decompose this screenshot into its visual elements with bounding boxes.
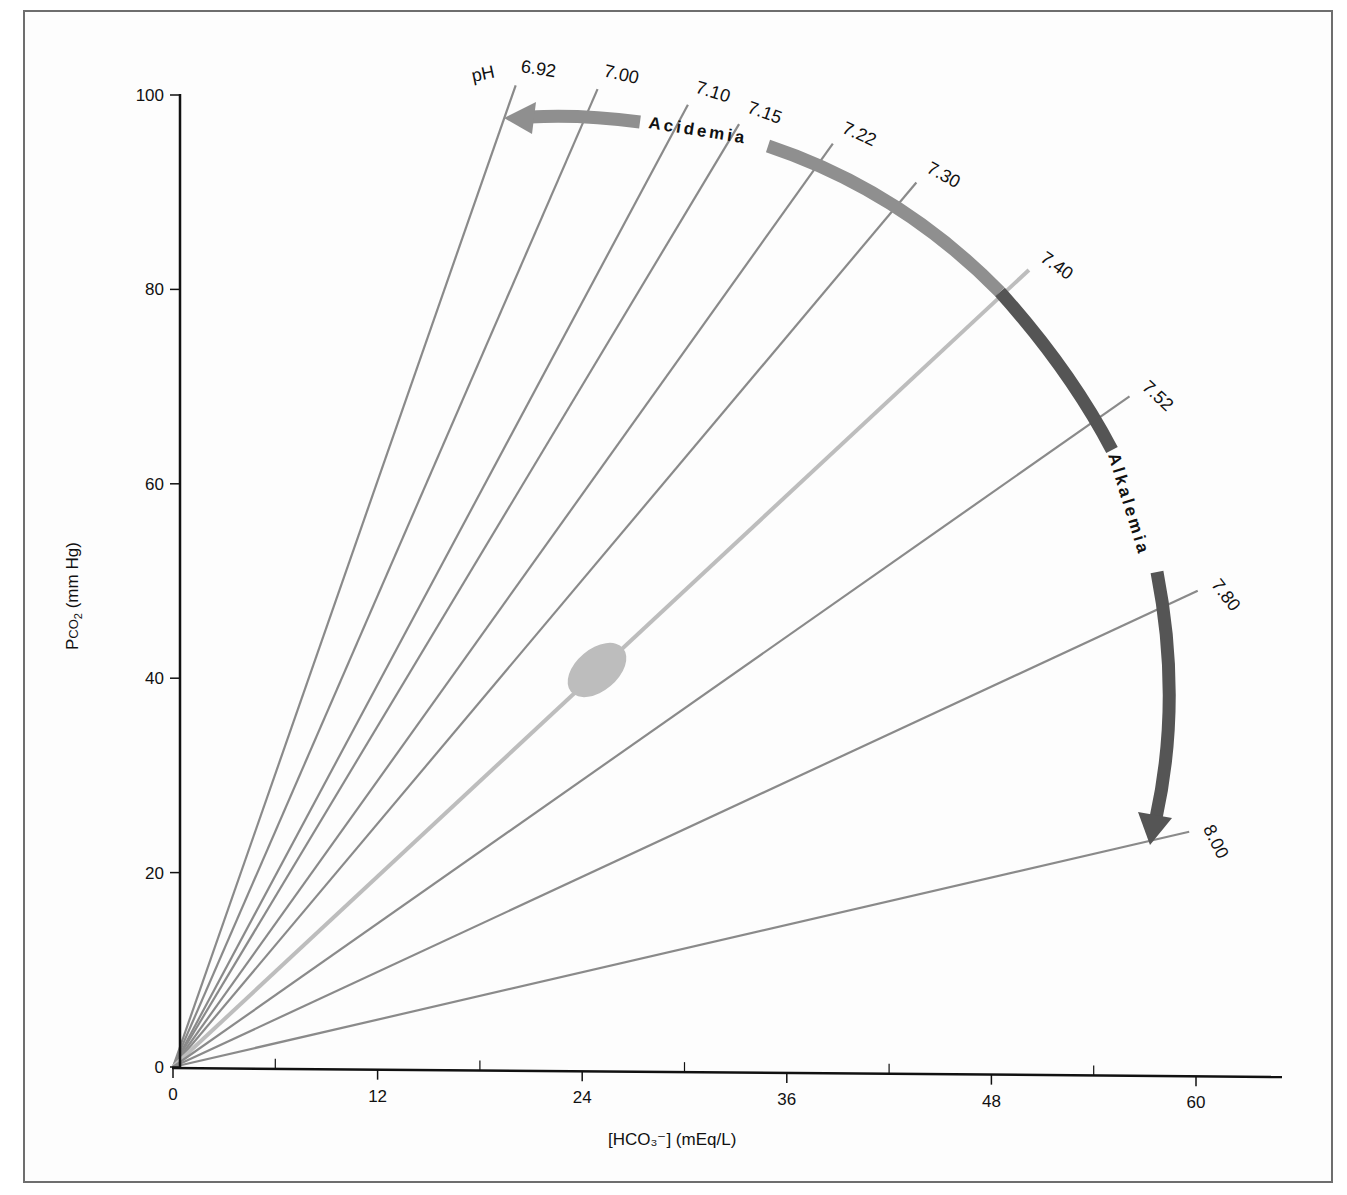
- x-tick-label: 36: [777, 1090, 796, 1109]
- x-axis-title: [HCO₃⁻] (mEq/L): [608, 1130, 736, 1149]
- ph-line-7-80: [173, 591, 1198, 1067]
- ph-label-6-92: 6.92: [520, 56, 558, 81]
- y-tick-label: 0: [155, 1058, 164, 1077]
- ph-label-7-80: 7.80: [1207, 575, 1244, 615]
- y-tick-label: 40: [145, 669, 164, 688]
- ph-label-7-00: 7.00: [602, 61, 641, 88]
- alkalemia-arc: [1000, 292, 1112, 450]
- y-axis-ticks: 020406080100: [136, 86, 180, 1077]
- acidemia-label: Acidemia: [647, 113, 748, 147]
- y-tick-label: 100: [136, 86, 164, 105]
- y-tick-label: 60: [145, 475, 164, 494]
- ph-label-7-22: 7.22: [839, 118, 879, 151]
- ph-isopleth-lines: [173, 85, 1198, 1067]
- y-axis-title: PCO2 (mm Hg): [63, 542, 84, 650]
- svg-text:PCO2 (mm Hg): PCO2 (mm Hg): [63, 542, 84, 650]
- ph-value-labels: 6.927.007.107.157.227.307.407.527.808.00: [520, 56, 1245, 862]
- acidemia-arc: [768, 146, 1000, 292]
- ph-line-7-00: [173, 89, 598, 1067]
- alkalemia-label: Alkalemia: [1104, 451, 1153, 558]
- x-tick-label: 60: [1187, 1093, 1206, 1112]
- x-axis: [172, 1068, 1282, 1077]
- ph-label-7-15: 7.15: [745, 97, 785, 128]
- ph-label-7-40: 7.40: [1037, 247, 1077, 284]
- ph-label-8-00: 8.00: [1199, 822, 1232, 862]
- ph-label-7-52: 7.52: [1138, 377, 1177, 415]
- ph-prefix-label: pH: [470, 62, 497, 86]
- ph-line-7-22: [173, 144, 833, 1067]
- ph-line-8-00: [173, 832, 1189, 1067]
- y-tick-label: 20: [145, 864, 164, 883]
- ph-line-7-15: [173, 124, 739, 1067]
- alkalemia-arc-tail: [1156, 572, 1169, 818]
- x-tick-label: 12: [368, 1087, 387, 1106]
- ph-label-7-30: 7.30: [923, 158, 963, 192]
- x-tick-label: 48: [982, 1092, 1001, 1111]
- x-tick-label: 0: [168, 1085, 177, 1104]
- x-axis-ticks: 01224364860: [168, 1059, 1205, 1112]
- x-tick-label: 24: [573, 1088, 592, 1107]
- ph-isopleth-chart: Acidemia Alkalemia 6.927.007.107.157.227…: [0, 0, 1347, 1195]
- ph-line-7-10: [173, 105, 688, 1067]
- ph-line-6-92: [173, 85, 516, 1067]
- y-tick-label: 80: [145, 280, 164, 299]
- ph-label-7-10: 7.10: [693, 77, 732, 106]
- acidemia-arc-tail: [530, 116, 640, 122]
